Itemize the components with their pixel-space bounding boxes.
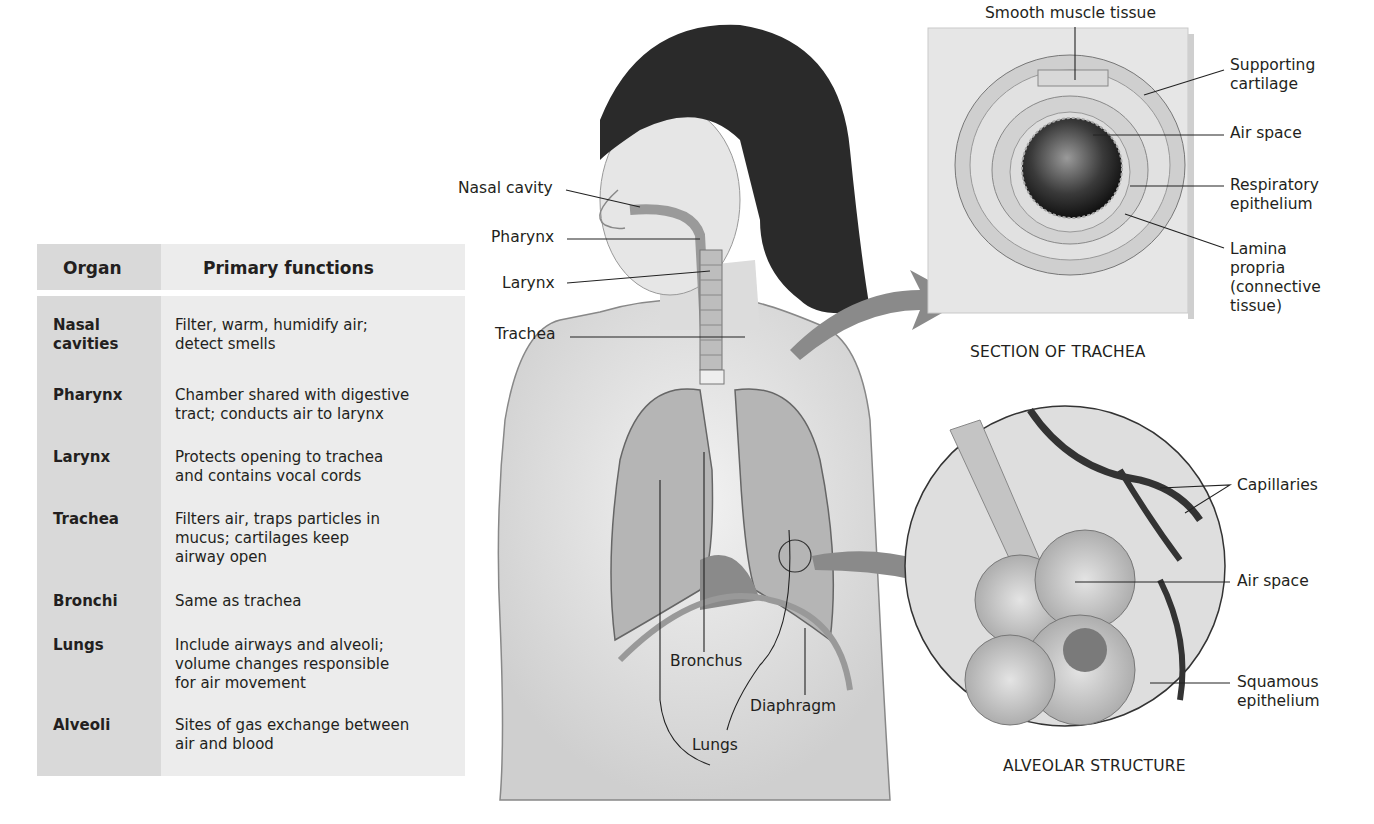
alveolar-structure-diagram — [905, 406, 1225, 726]
label-respiratory-epithelium: Respiratory epithelium — [1230, 176, 1319, 214]
label-nasal-cavity: Nasal cavity — [458, 179, 553, 198]
organ-function: Include airways and alveoli; volume chan… — [175, 636, 465, 693]
organ-function: Filters air, traps particles in mucus; c… — [175, 510, 465, 567]
label-lungs: Lungs — [692, 736, 738, 755]
organ-name: Bronchi — [53, 592, 153, 611]
caption-section-of-trachea: SECTION OF TRACHEA — [970, 343, 1146, 361]
label-smooth-muscle: Smooth muscle tissue — [985, 4, 1156, 23]
organ-functions-table: Organ Primary functions Nasal cavities F… — [37, 244, 465, 776]
label-squamous-epithelium: Squamous epithelium — [1237, 673, 1320, 711]
organ-function: Filter, warm, humidify air; detect smell… — [175, 316, 465, 354]
label-alveolar-air-space: Air space — [1237, 572, 1309, 591]
trachea-section-diagram — [928, 28, 1194, 319]
organ-name: Alveoli — [53, 716, 153, 735]
table-header-functions: Primary functions — [203, 258, 374, 278]
caption-alveolar-structure: ALVEOLAR STRUCTURE — [1003, 757, 1186, 775]
label-larynx: Larynx — [502, 274, 555, 293]
label-capillaries: Capillaries — [1237, 476, 1318, 495]
organ-name: Pharynx — [53, 386, 153, 405]
organ-function: Sites of gas exchange between air and bl… — [175, 716, 465, 754]
organ-function: Same as trachea — [175, 592, 465, 611]
label-trachea: Trachea — [495, 325, 555, 344]
label-diaphragm: Diaphragm — [750, 697, 836, 716]
label-supporting-cartilage: Supporting cartilage — [1230, 56, 1315, 94]
label-lamina-propria: Lamina propria (connective tissue) — [1230, 240, 1321, 316]
label-pharynx: Pharynx — [491, 228, 554, 247]
table-header-organ-cell: Organ — [37, 244, 161, 290]
organ-name: Nasal cavities — [53, 316, 153, 354]
organ-name: Lungs — [53, 636, 153, 655]
label-bronchus: Bronchus — [670, 652, 742, 671]
organ-function: Protects opening to trachea and contains… — [175, 448, 465, 486]
organ-column — [37, 296, 161, 776]
label-trachea-air-space: Air space — [1230, 124, 1302, 143]
organ-name: Larynx — [53, 448, 153, 467]
organ-name: Trachea — [53, 510, 153, 529]
table-header-organ: Organ — [63, 258, 122, 278]
table-header-functions-cell: Primary functions — [161, 244, 465, 290]
organ-function: Chamber shared with digestive tract; con… — [175, 386, 465, 424]
human-figure — [498, 25, 890, 800]
